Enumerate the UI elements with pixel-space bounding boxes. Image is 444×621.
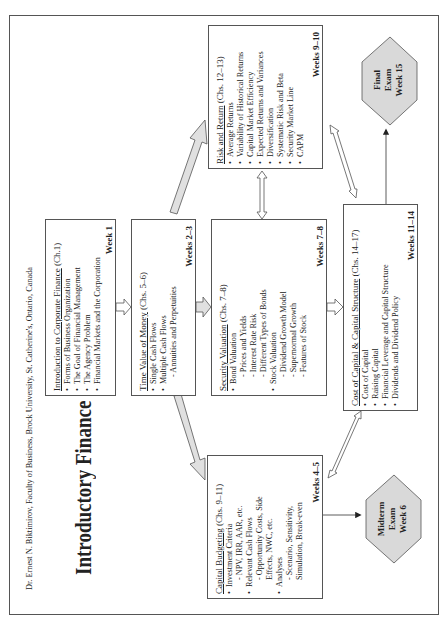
arrow-risk-cost — [330, 125, 357, 198]
tvm-heading: Time Value of Money — [138, 312, 148, 391]
security-subitem: - Interest Rate Risk — [249, 226, 259, 391]
risk-item: Capital Market Efficiency — [246, 32, 256, 164]
box-cost-of-capital: Cost of Capital & Capital Structure (Chs… — [343, 204, 418, 411]
box-risk-and-return: Risk and Return (Chs. 12–13) Average Ret… — [208, 25, 323, 169]
page-title-wrap: Introductory Finance 101 — [72, 367, 94, 575]
capbud-item: Analyses — [275, 462, 285, 594]
intro-item: The Agency Problem — [83, 226, 93, 391]
box-security-valuation: Security Valuation (Chs. 7–8) Bond Valua… — [211, 219, 327, 396]
security-item: Bond Valuation — [229, 226, 239, 391]
author-line: Dr. Ernest N. Biktimirov, Faculty of Bus… — [25, 267, 34, 590]
final-exam-label: Final Exam Week 15 — [372, 52, 405, 108]
cost-item: Financial Leverage and Capital Structure — [381, 211, 391, 406]
risk-item: Expected Returns and Variances — [256, 32, 266, 164]
cost-chapters: (Chs. 14–17) — [350, 230, 360, 279]
final-exam-line: Week 15 — [394, 52, 405, 108]
midterm-exam-label: Midterm Exam Week 6 — [376, 491, 409, 547]
cost-weeks: Weeks 11–14 — [406, 211, 416, 260]
risk-item: Security Market Line — [286, 32, 296, 164]
author-line-wrap: Dr. Ernest N. Biktimirov, Faculty of Bus… — [18, 267, 36, 590]
security-subitem: - Dividend Growth Model — [279, 226, 289, 391]
capbud-weeks: Weeks 4–5 — [311, 462, 321, 503]
capbud-item: Investment Criteria — [225, 462, 235, 594]
box-time-value-of-money: Time Value of Money (Chs. 5–6) Single Ca… — [131, 219, 196, 396]
intro-weeks: Week 1 — [104, 226, 114, 254]
risk-item: Variability of Historical Returns — [236, 32, 246, 164]
capbud-chapters: (Chs. 9–11) — [214, 484, 224, 528]
arrow-risk-security — [257, 171, 267, 219]
security-subitem: - Features of Stock — [299, 226, 309, 391]
tvm-item: Multiple Cash Flows — [159, 226, 169, 391]
capbud-subitem: - Scenario, Sensitivity, — [285, 462, 295, 594]
security-weeks: Weeks 7–8 — [315, 226, 325, 267]
risk-chapters: (Chs. 12–13) — [215, 56, 225, 105]
arrow-tvm-to-security — [196, 297, 211, 317]
box-intro: Introduction to Corporate Finance (Ch.1)… — [45, 219, 116, 396]
cost-item: Cost of Capital — [361, 211, 371, 406]
risk-item: Systematic Risk and Beta — [276, 32, 286, 164]
capbud-subitem: - Opportunity Costs, Side — [255, 462, 265, 594]
capbud-subitem: Effects, NWC, etc. — [265, 462, 275, 594]
midterm-exam-line: Exam — [387, 491, 398, 547]
cost-heading: Cost of Capital & Capital Structure — [350, 279, 360, 406]
final-exam-line: Final — [372, 52, 383, 108]
intro-item: The Goal of Financial Management — [73, 226, 83, 391]
intro-heading: Introduction to Corporate Finance — [52, 268, 62, 391]
arrow-capbud-cost — [328, 411, 361, 478]
capbud-subitem: Simulation, Break-even — [295, 462, 305, 594]
tvm-item: Single Cash Flows — [149, 226, 159, 391]
security-heading: Security Valuation — [218, 324, 228, 391]
midterm-exam-line: Week 6 — [398, 491, 409, 547]
security-item: Stock Valuation — [269, 226, 279, 391]
security-subitem: - Supernormal Growth — [289, 226, 299, 391]
risk-item: Average Returns — [226, 32, 236, 164]
arrow-tvm-to-risk — [170, 120, 207, 214]
tvm-chapters: (Chs. 5–6) — [138, 272, 148, 312]
security-chapters: (Chs. 7–8) — [218, 284, 228, 324]
arrow-intro-to-tvm — [116, 299, 131, 315]
box-capital-budgeting: Capital Budgeting (Chs. 9–11) Investment… — [207, 455, 323, 599]
risk-item: CAPM — [296, 32, 306, 164]
intro-item: Forms of Business Organization — [63, 226, 73, 391]
security-subitem: - Prices and Yields — [239, 226, 249, 391]
risk-weeks: Weeks 9–10 — [311, 32, 321, 77]
arrow-security-to-cost — [327, 299, 343, 315]
risk-item: Diversification — [266, 32, 276, 164]
capbud-item: Relevant Cash Flows — [245, 462, 255, 594]
page-title: Introductory Finance 101 — [69, 367, 97, 575]
arrow-tvm-to-capbud — [174, 394, 205, 480]
capbud-heading: Capital Budgeting — [214, 528, 224, 594]
tvm-weeks: Weeks 2–3 — [184, 226, 194, 267]
cost-item: Dividends and Dividend Policy — [391, 211, 401, 406]
intro-chapters: (Ch.1) — [52, 243, 62, 269]
security-subitem: - Different Types of Bonds — [259, 226, 269, 391]
tvm-subitem: - Annuities and Perpetuities — [169, 226, 179, 391]
midterm-exam-line: Midterm — [376, 491, 387, 547]
risk-heading: Risk and Return — [215, 106, 225, 165]
final-exam-line: Exam — [383, 52, 394, 108]
capbud-subitem: - NPV, IRR, AAR, etc. — [235, 462, 245, 594]
cost-item: Raising Capital — [371, 211, 381, 406]
intro-item: Financial Markets and the Corporation — [93, 226, 103, 391]
